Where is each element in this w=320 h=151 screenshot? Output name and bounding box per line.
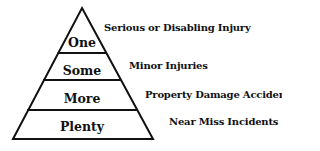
level-more-label: More	[42, 91, 122, 106]
level-one-label: One	[42, 35, 122, 50]
level-plenty-label: Plenty	[42, 119, 122, 134]
annotation-near-miss: Near Miss Incidents	[169, 116, 278, 127]
level-some-label: Some	[42, 63, 122, 78]
annotation-minor-injuries: Minor Injuries	[129, 60, 208, 71]
annotation-serious-injury: Serious or Disabling Injury	[104, 22, 251, 33]
annotation-property-damage: Property Damage Accidents	[145, 89, 282, 100]
